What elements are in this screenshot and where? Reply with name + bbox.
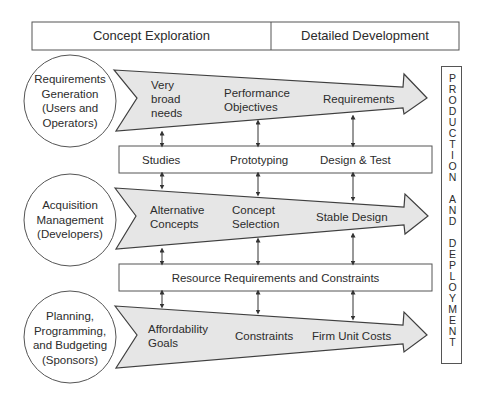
actor-line: Acquisition <box>24 198 116 213</box>
actor-line: Management <box>24 213 116 228</box>
arrow-item-line: broad <box>151 92 182 106</box>
actor-line: Operators) <box>24 116 116 131</box>
arrow-item-line: Selection <box>232 217 279 231</box>
arrow-item-line: Goals <box>148 336 208 350</box>
vertical-letter: D <box>442 216 463 227</box>
actor-line: (Developers) <box>24 227 116 242</box>
arrow-item-firm-unit-costs: Firm Unit Costs <box>312 329 391 343</box>
arrow-item-line: Concepts <box>150 217 204 231</box>
arrow-item-constraints: Constraints <box>235 329 293 343</box>
linking-item-design-test: Design & Test <box>320 153 391 167</box>
linking-item-prototyping: Prototyping <box>230 153 288 167</box>
linking-item-resource-requirements: Resource Requirements and Constraints <box>119 271 432 285</box>
arrow-item-affordability-goals: Affordability Goals <box>148 322 208 350</box>
arrow-item-requirements: Requirements <box>323 92 395 106</box>
arrow-item-line: needs <box>151 106 182 120</box>
linking-item-studies: Studies <box>142 153 180 167</box>
arrow-item-line: Very <box>151 78 182 92</box>
arrow-item-concept-selection: Concept Selection <box>232 203 279 231</box>
actor-line: Planning, <box>24 309 116 324</box>
vertical-letter: T <box>442 337 463 348</box>
actor-line: Requirements <box>24 72 116 87</box>
actor-line: (Sponsors) <box>24 353 116 368</box>
arrow-item-line: Objectives <box>224 100 290 114</box>
actor-line: Generation <box>24 87 116 102</box>
actor-line: and Budgeting <box>24 338 116 353</box>
arrow-item-line: Alternative <box>150 203 204 217</box>
production-deployment-box: P R O D U C T I O N A N D D E P L O Y M … <box>441 66 462 364</box>
arrow-item-line: Stable Design <box>316 210 388 224</box>
actor-requirements-generation: Requirements Generation (Users and Opera… <box>24 72 116 130</box>
actor-planning-programming-budgeting: Planning, Programming, and Budgeting (Sp… <box>24 309 116 367</box>
actor-acquisition-management: Acquisition Management (Developers) <box>24 198 116 242</box>
arrow-item-performance-objectives: Performance Objectives <box>224 86 290 114</box>
actor-line: (Users and <box>24 101 116 116</box>
arrow-item-alternative-concepts: Alternative Concepts <box>150 203 204 231</box>
arrow-item-line: Affordability <box>148 322 208 336</box>
arrow-item-line: Requirements <box>323 92 395 106</box>
arrow-item-very-broad-needs: Very broad needs <box>151 78 182 120</box>
arrow-item-line: Concept <box>232 203 279 217</box>
arrow-item-line: Performance <box>224 86 290 100</box>
arrow-item-line: Constraints <box>235 329 293 343</box>
phase-label-concept-exploration: Concept Exploration <box>32 28 271 44</box>
arrow-item-stable-design: Stable Design <box>316 210 388 224</box>
phase-label-detailed-development: Detailed Development <box>271 28 459 44</box>
arrow-item-line: Firm Unit Costs <box>312 329 391 343</box>
vertical-letter: N <box>442 172 463 183</box>
actor-line: Programming, <box>24 324 116 339</box>
